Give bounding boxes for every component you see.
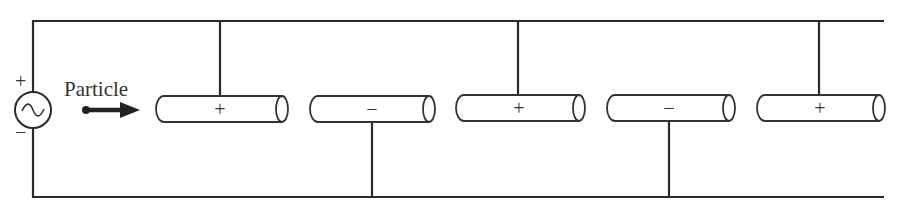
bottom-wire [33, 129, 884, 197]
source-plus-sign: + [15, 70, 26, 92]
tube-4-sign: − [663, 97, 674, 119]
tube-2-sign: − [366, 98, 377, 120]
source-minus-sign: − [15, 121, 26, 143]
particle-label: Particle [64, 77, 128, 101]
tube-3-sign: + [513, 97, 524, 119]
particle-arrow-icon [82, 102, 140, 118]
top-wire [33, 21, 884, 92]
tube-1-sign: + [214, 98, 225, 120]
linac-diagram: + − Particle + − + − + [0, 0, 900, 208]
tube-5-sign: + [814, 97, 825, 119]
